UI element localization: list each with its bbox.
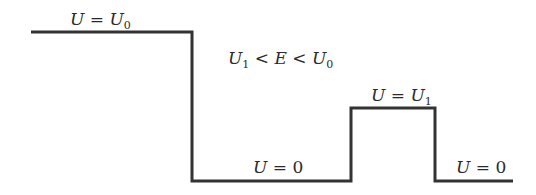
potential-diagram: U = U0 U1 < E < U0 U = 0 U = U1 U = 0 bbox=[0, 0, 536, 195]
label-energy-condition: U1 < E < U0 bbox=[228, 48, 333, 71]
label-region2: U = 0 bbox=[253, 157, 303, 177]
label-region1: U = U0 bbox=[70, 9, 131, 32]
label-region4: U = 0 bbox=[456, 157, 506, 177]
label-barrier: U = U1 bbox=[371, 85, 432, 108]
